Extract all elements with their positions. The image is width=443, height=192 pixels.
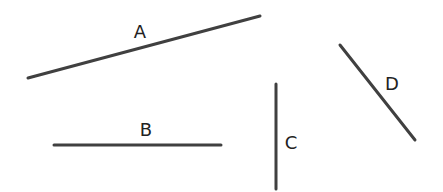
segment-c-label: C: [285, 132, 298, 153]
segment-b-label: B: [140, 119, 152, 140]
segment-a-label: A: [134, 21, 147, 42]
segment-d-label: D: [385, 73, 399, 94]
diagram-svg: A B C D: [0, 0, 443, 192]
segment-d: [340, 45, 415, 140]
line-segments-diagram: A B C D: [0, 0, 443, 192]
